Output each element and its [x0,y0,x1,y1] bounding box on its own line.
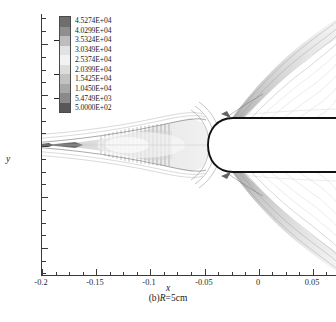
legend-label: 2.0399E+04 [75,65,111,74]
legend-swatch [60,46,70,56]
caption-rest: =5cm [166,293,188,303]
legend-swatch [60,27,70,37]
legend-swatch [60,93,70,103]
legend-swatch [60,17,70,27]
legend-label: 1.5425E+04 [75,74,111,83]
x-axis-label: x [0,283,336,293]
legend-colorbar [59,16,71,113]
legend-label: 5.4749E+03 [75,94,111,103]
legend-swatch [60,84,70,94]
legend-tick [54,40,59,41]
legend-swatch [60,65,70,75]
legend-swatch [60,36,70,46]
legend-label: 3.5324E+04 [75,35,111,44]
caption-prefix: (b) [149,293,160,303]
y-axis-label: y [6,154,10,164]
legend-label: 5.0000E+02 [75,103,111,112]
legend-label: 2.5374E+04 [75,55,111,64]
figure-panel: 4.5274E+04 4.0299E+04 3.5324E+04 3.0349E… [0,0,336,322]
legend-swatch [60,55,70,65]
legend-label: 3.0349E+04 [75,45,111,54]
legend-tick [54,98,59,99]
legend-swatch [60,103,70,113]
legend-label: 4.0299E+04 [75,26,111,35]
legend-swatch [60,74,70,84]
legend-label: 1.0450E+04 [75,84,111,93]
legend-label: 4.5274E+04 [75,16,111,25]
contour-legend: 4.5274E+04 4.0299E+04 3.5324E+04 3.0349E… [59,16,133,113]
legend-tick [54,74,59,75]
figure-caption: (b)R=5cm [0,293,336,303]
